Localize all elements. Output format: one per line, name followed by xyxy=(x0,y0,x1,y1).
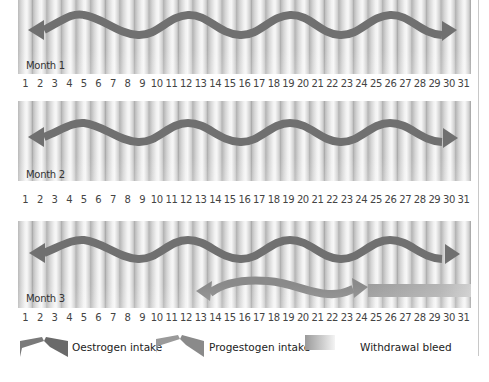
month-label: Month 2 xyxy=(26,169,65,180)
month-1-panel: Month 1 xyxy=(18,0,471,74)
legend-bleed-label: Withdrawal bleed xyxy=(360,341,452,353)
withdrawal-bleed-legend-swatch xyxy=(305,335,335,350)
progestogen-legend-icon xyxy=(156,335,206,357)
month-2-panel: Month 2 xyxy=(18,101,471,181)
day-axis-month-1: 1234567891011121314151617181920212223242… xyxy=(18,78,471,89)
divider-line xyxy=(478,0,479,356)
day-axis-month-2: 1234567891011121314151617181920212223242… xyxy=(18,194,471,205)
legend-oestrogen-label: Oestrogen intake xyxy=(72,341,162,353)
oestrogen-legend-icon xyxy=(20,335,70,357)
day-axis-month-3: 1234567891011121314151617181920212223242… xyxy=(18,312,471,323)
legend-progestogen-label: Progestogen intake xyxy=(209,341,310,353)
legend: Oestrogen intake Progestogen intake With… xyxy=(18,335,478,361)
month-label: Month 1 xyxy=(26,60,65,71)
month-3-panel: Month 3 xyxy=(18,221,471,308)
month-label: Month 3 xyxy=(26,293,65,304)
